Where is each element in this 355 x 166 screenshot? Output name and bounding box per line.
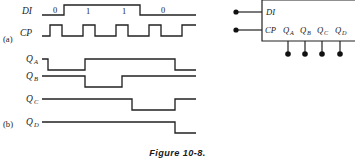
signal-label-qc: Q (26, 94, 33, 104)
part-label-b: (b) (3, 119, 13, 129)
signal-sub-qc: C (34, 98, 39, 105)
signal-label-qd: Q (26, 117, 33, 127)
waveform-qa (42, 59, 196, 70)
waveform-cp (42, 25, 196, 36)
signal-sub-qd: D (33, 121, 39, 128)
signal-label-di: DI (21, 6, 33, 16)
block-di-terminal-dot (233, 9, 238, 14)
waveform-qb (42, 76, 196, 87)
block-cp-terminal-dot (233, 27, 238, 32)
di-bit-label-1: 1 (86, 7, 90, 16)
block-output-label-qd: Q (335, 25, 342, 35)
signal-label-cp: CP (20, 28, 32, 38)
block-output-sub-qc: C (324, 29, 329, 36)
waveform-qc (42, 99, 196, 110)
block-input-label-cp: CP (265, 25, 277, 35)
block-output-sub-qa: A (289, 29, 294, 36)
block-output-sub-qb: B (307, 29, 311, 36)
di-bit-label-0: 0 (53, 6, 57, 15)
block-output-label-qc: Q (317, 25, 324, 35)
block-qb-terminal-dot (302, 51, 308, 57)
figure-caption: Figure 10-8. (0, 148, 355, 158)
block-output-label-qa: Q (283, 25, 290, 35)
waveform-qd (42, 122, 196, 133)
block-output-label-qb: Q (300, 25, 307, 35)
block-output-sub-qd: D (341, 29, 347, 36)
di-bit-label-2: 1 (122, 7, 126, 16)
block-qc-terminal-dot (319, 51, 325, 57)
signal-sub-qb: B (34, 75, 38, 82)
di-bit-label-3: 0 (161, 6, 165, 15)
timing-diagram-canvas: 0 1 1 0 DI CP Q A Q B Q C Q D (a) (b) (0, 0, 355, 166)
block-input-label-di: DI (265, 7, 276, 17)
waveform-di (42, 5, 196, 15)
figure-10-8: 0 1 1 0 DI CP Q A Q B Q C Q D (a) (b) (0, 0, 355, 166)
signal-label-qb: Q (26, 71, 33, 81)
signal-sub-qa: A (33, 58, 39, 65)
part-label-a: (a) (3, 34, 13, 44)
block-qd-terminal-dot (337, 51, 343, 57)
signal-label-qa: Q (26, 54, 33, 64)
block-qa-terminal-dot (285, 51, 291, 57)
